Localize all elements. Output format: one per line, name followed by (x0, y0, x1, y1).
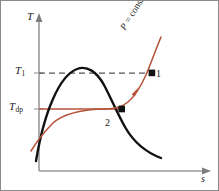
tick-label-t1: T1 (15, 65, 25, 78)
marker-state-1 (149, 70, 156, 77)
process-curve-p-const (31, 37, 161, 151)
y-axis-arrowhead (36, 13, 43, 22)
axes-group (36, 13, 211, 174)
point-label-1: 1 (156, 69, 161, 79)
marker-state-2 (118, 106, 125, 113)
x-axis-label: s (201, 174, 205, 184)
y-axis-label: T (27, 11, 33, 22)
tick-label-tdp: Tdp (9, 101, 23, 114)
ts-diagram-canvas (1, 1, 219, 191)
tick-label-tdp-subscript: dp (15, 105, 23, 114)
tick-label-t1-subscript: 1 (21, 69, 25, 78)
point-label-2: 2 (105, 118, 110, 128)
ts-diagram-figure: T s T1 Tdp 1 2 P = const. (0, 0, 219, 191)
